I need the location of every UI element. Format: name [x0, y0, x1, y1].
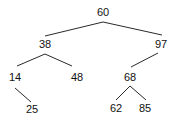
node-25: 25	[26, 103, 38, 115]
edge-14-25	[15, 88, 31, 102]
node-14: 14	[9, 71, 21, 83]
node-38: 38	[39, 38, 51, 50]
tree-diagram: 60 38 97 14 48 68 25 62 85	[0, 0, 175, 121]
node-48: 48	[71, 71, 83, 83]
edge-60-97	[103, 22, 162, 35]
node-60: 60	[97, 6, 109, 18]
edge-60-38	[45, 22, 103, 36]
edge-97-68	[131, 53, 158, 67]
node-97: 97	[155, 38, 167, 50]
edge-68-85	[130, 86, 146, 100]
node-68: 68	[124, 71, 136, 83]
edge-38-14	[17, 54, 45, 66]
tree-edges	[15, 22, 162, 102]
node-62: 62	[110, 102, 122, 114]
node-85: 85	[139, 102, 151, 114]
edge-68-62	[116, 86, 130, 100]
edge-38-48	[45, 54, 72, 66]
